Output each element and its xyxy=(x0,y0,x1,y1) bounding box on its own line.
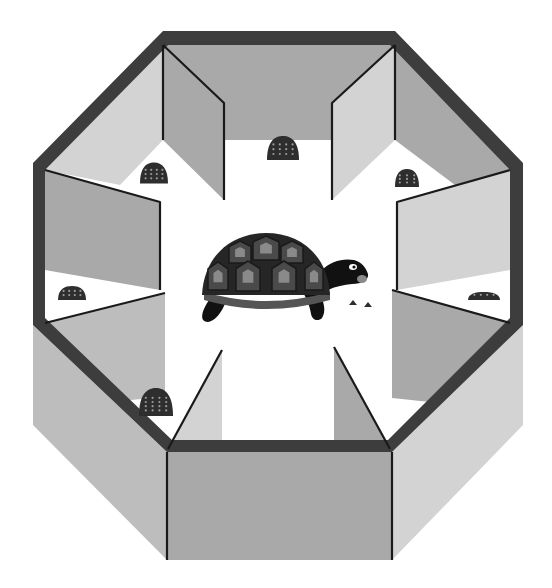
rock-dot xyxy=(473,294,475,296)
rock-dot xyxy=(413,178,415,180)
rock-dot xyxy=(156,177,158,179)
rock-dot xyxy=(272,143,274,145)
rock-dot xyxy=(152,405,154,407)
rock-dot xyxy=(79,290,81,292)
rock-dot xyxy=(145,169,147,171)
rock-dot xyxy=(158,401,160,403)
rock-dot xyxy=(161,177,163,179)
rock-dot xyxy=(285,143,287,145)
rock-dot xyxy=(145,409,147,411)
rock-dot xyxy=(279,148,281,150)
rock-dot xyxy=(74,294,76,296)
rock-dot xyxy=(63,294,65,296)
rock-dot xyxy=(292,148,294,150)
rock-dot xyxy=(150,177,152,179)
rock-dot xyxy=(63,290,65,292)
rock-dot xyxy=(285,153,287,155)
rock-dot xyxy=(493,294,495,296)
rock-dot xyxy=(292,143,294,145)
rock-dot xyxy=(161,173,163,175)
rock-dot xyxy=(165,405,167,407)
illustration-canvas xyxy=(0,0,552,588)
rock-dot xyxy=(399,178,401,180)
tortoise-pupil xyxy=(352,265,355,268)
rock-dot xyxy=(165,397,167,399)
rock-dot xyxy=(152,409,154,411)
front-outer-wall xyxy=(167,452,392,560)
rock-dot xyxy=(68,294,70,296)
rock-dot xyxy=(161,169,163,171)
tortoise-maze-illustration xyxy=(0,0,552,588)
rock-dot xyxy=(480,294,482,296)
rock-dot xyxy=(158,409,160,411)
rock-dot xyxy=(292,153,294,155)
rock-dot xyxy=(68,290,70,292)
rock-dot xyxy=(150,169,152,171)
rock-dot xyxy=(150,173,152,175)
rock-dot xyxy=(145,177,147,179)
rock-dot xyxy=(399,174,401,176)
tortoise-food-in-mouth xyxy=(357,275,367,283)
rock-dot xyxy=(406,181,408,183)
rock-dot xyxy=(285,148,287,150)
rock-dot xyxy=(156,173,158,175)
rock-dot xyxy=(272,148,274,150)
rock-dot xyxy=(145,397,147,399)
rock-dot xyxy=(272,153,274,155)
rock-dot xyxy=(406,178,408,180)
rock-dot xyxy=(406,174,408,176)
rock-dot xyxy=(145,173,147,175)
rock-dot xyxy=(279,143,281,145)
rock-dot xyxy=(279,153,281,155)
rock-dot xyxy=(486,294,488,296)
rock-dot xyxy=(74,290,76,292)
rock-dot xyxy=(145,405,147,407)
rock-dot xyxy=(145,401,147,403)
rock-dot xyxy=(399,181,401,183)
rock-dot xyxy=(165,409,167,411)
rock-dot xyxy=(152,397,154,399)
rock-dot xyxy=(158,397,160,399)
rock-dot xyxy=(158,405,160,407)
rock-dot xyxy=(152,401,154,403)
rock-dot xyxy=(156,169,158,171)
rock-dot xyxy=(413,174,415,176)
rock-dot xyxy=(413,181,415,183)
rock-dot xyxy=(165,401,167,403)
rock-dot xyxy=(79,294,81,296)
